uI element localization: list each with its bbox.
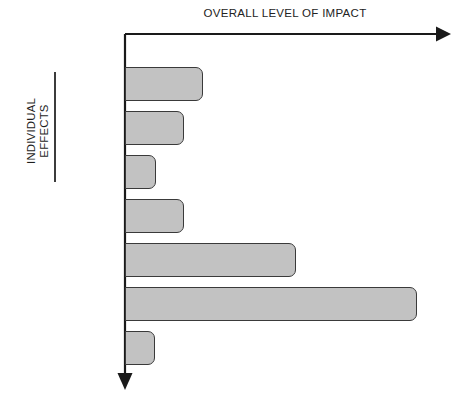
bars-layer: IMPACT A IMPACT B IMPACT C MASKING ADDIT…: [0, 0, 454, 399]
bar-impact-c: [125, 155, 156, 189]
bar-masking: [125, 199, 184, 233]
bar-impact-b: [125, 111, 184, 145]
bar-additive: [125, 243, 296, 277]
bar-impact-a: [125, 67, 203, 101]
bar-synergistic: [125, 287, 417, 321]
chart-canvas: OVERALL LEVEL OF IMPACT INDIVIDUALEFFECT…: [0, 0, 454, 399]
bar-compensatory: [125, 331, 155, 365]
